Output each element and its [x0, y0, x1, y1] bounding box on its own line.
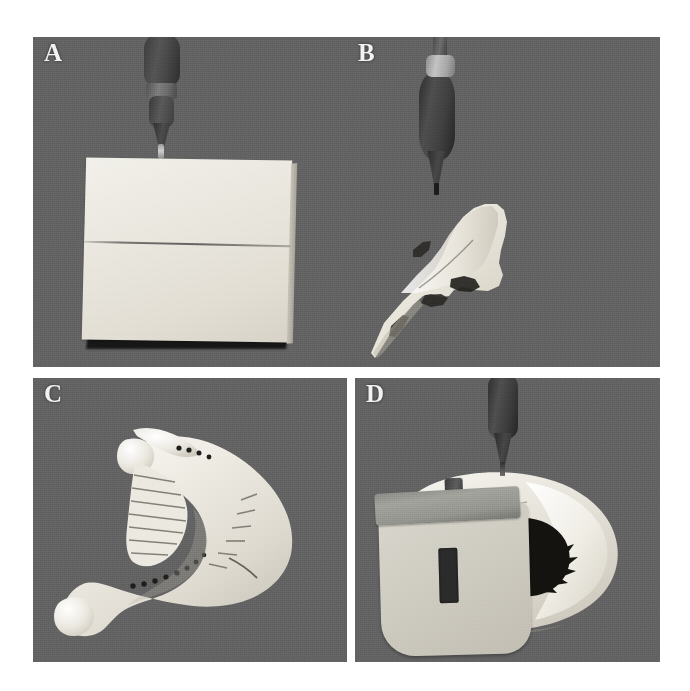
guide-cutting-slot — [438, 548, 458, 603]
panel-label-b: B — [358, 39, 375, 67]
bur-tip-b — [434, 183, 439, 195]
bur-tip-a — [158, 144, 164, 159]
panel-label-c: C — [44, 380, 63, 408]
bur-body-d — [488, 378, 518, 439]
osteotomy-cut-line-a — [84, 241, 290, 247]
bone-block-right-edge — [287, 163, 297, 344]
bone-graft-notch-lower — [421, 294, 448, 307]
mandible-anterior-knob — [54, 597, 94, 636]
bur-taper-b — [426, 151, 447, 187]
panel-label-a: A — [44, 39, 63, 67]
bur-handle-a — [144, 37, 180, 87]
bur-tip-d — [500, 462, 505, 476]
panel-a: A — [33, 37, 347, 367]
bur-body-b — [419, 71, 455, 161]
bur-collar-b — [426, 55, 455, 77]
bone-graft-specimen — [351, 195, 651, 367]
panel-c: C — [33, 378, 347, 662]
figure-container: A B — [0, 0, 690, 691]
panel-b: B — [347, 37, 660, 367]
panel-label-d: D — [366, 380, 385, 408]
bone-graft-notch-upper — [413, 241, 431, 257]
panel-d: D — [355, 378, 660, 662]
mandible-model-specimen — [33, 378, 347, 662]
bone-block-specimen — [82, 158, 293, 343]
